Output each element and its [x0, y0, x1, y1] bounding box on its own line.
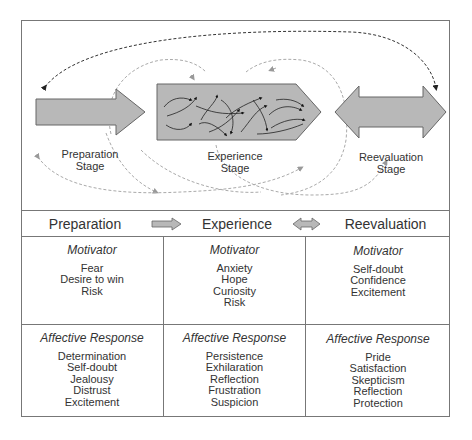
stage-label-line: Stage: [221, 162, 250, 174]
motivator-cell-preparation: Motivator Fear Desire to win Risk: [21, 245, 163, 297]
motivator-cell-experience: Motivator Anxiety Hope Curiosity Risk: [164, 245, 305, 309]
list-item: Confidence: [306, 275, 450, 287]
header-preparation: Preparation: [21, 216, 149, 232]
affective-cell-preparation: Affective Response Determination Self-do…: [21, 333, 163, 408]
list-item: Protection: [306, 398, 450, 410]
list-item: Exhilaration: [164, 362, 305, 374]
stage-label-line: Stage: [76, 160, 105, 172]
right-arrow-icon: [151, 217, 183, 231]
stage-label-line: Reevaluation: [359, 151, 423, 163]
stage-label-line: Preparation: [62, 148, 119, 160]
cell-title: Motivator: [164, 245, 305, 257]
affective-cell-experience: Affective Response Persistence Exhilarat…: [164, 333, 305, 408]
experience-block-icon: [157, 84, 321, 140]
cell-title: Affective Response: [306, 334, 450, 346]
feedback-loop-arrow: [45, 31, 436, 88]
list-item: Excitement: [306, 287, 450, 299]
reevaluation-stage-label: Reevaluation Stage: [344, 151, 438, 175]
header-experience: Experience: [191, 216, 283, 232]
list-item: Frustration: [164, 385, 305, 397]
list-item: Satisfaction: [306, 363, 450, 375]
cell-title: Motivator: [21, 245, 163, 257]
experience-stage-label: Experience Stage: [190, 150, 280, 174]
list-item: Self-doubt: [21, 362, 163, 374]
cell-title: Affective Response: [164, 333, 305, 345]
list-item: Hope: [164, 274, 305, 286]
stage-flow-diagram: [21, 20, 450, 210]
reevaluation-arrow-icon: [335, 86, 446, 138]
list-item: Distrust: [21, 385, 163, 397]
affective-cell-reevaluation: Affective Response Pride Satisfaction Sk…: [306, 334, 450, 409]
preparation-arrow-icon: [36, 89, 145, 135]
double-arrow-icon: [292, 217, 322, 231]
list-item: Risk: [164, 297, 305, 309]
list-item: Excitement: [21, 397, 163, 409]
list-item: Suspicion: [164, 397, 305, 409]
cell-title: Motivator: [306, 246, 450, 258]
preparation-stage-label: Preparation Stage: [45, 148, 135, 172]
header-reevaluation: Reevaluation: [321, 216, 450, 232]
list-item: Desire to win: [21, 274, 163, 286]
list-item: Risk: [21, 286, 163, 298]
list-item: Reflection: [306, 386, 450, 398]
stage-label-line: Stage: [377, 163, 406, 175]
motivator-cell-reevaluation: Motivator Self-doubt Confidence Exciteme…: [306, 246, 450, 298]
row-divider: [21, 324, 450, 325]
stage-header-row: Preparation Experience Reevaluation: [21, 210, 450, 237]
stage-label-line: Experience: [207, 150, 262, 162]
cell-title: Affective Response: [21, 333, 163, 345]
